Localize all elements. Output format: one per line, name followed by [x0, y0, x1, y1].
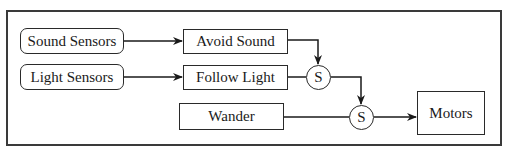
node-label: Avoid Sound	[196, 33, 274, 50]
suppressor-label: S	[357, 109, 365, 126]
node-sound-sensors: Sound Sensors	[20, 28, 124, 54]
suppressor-label: S	[314, 69, 322, 86]
node-label: Wander	[208, 108, 254, 125]
node-label: Light Sensors	[31, 69, 114, 86]
node-motors: Motors	[417, 91, 485, 135]
node-wander: Wander	[179, 103, 284, 130]
node-avoid-sound: Avoid Sound	[183, 29, 288, 54]
node-label: Sound Sensors	[28, 33, 117, 50]
node-label: Motors	[429, 105, 472, 122]
suppressor-node-2: S	[349, 105, 374, 130]
edge-s1-to-s2	[331, 77, 361, 104]
edge-avoid-to-s1	[287, 40, 318, 64]
node-light-sensors: Light Sensors	[20, 64, 124, 90]
suppressor-node-1: S	[306, 65, 331, 90]
node-follow-light: Follow Light	[183, 65, 288, 90]
node-label: Follow Light	[196, 69, 275, 86]
